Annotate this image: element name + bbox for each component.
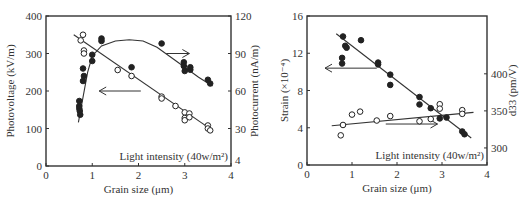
filled-marker — [437, 116, 443, 122]
x-tick-label: 0 — [43, 169, 49, 181]
filled-marker — [339, 61, 345, 67]
filled-marker — [159, 41, 165, 47]
filled-marker — [387, 72, 393, 78]
y-tick-label: 300 — [26, 48, 43, 60]
open-marker — [387, 113, 393, 119]
open-marker — [340, 122, 346, 128]
filled-marker — [207, 81, 213, 87]
open-marker — [129, 73, 135, 79]
open-marker — [80, 32, 86, 38]
open-marker — [207, 128, 213, 134]
filled-marker — [375, 62, 381, 68]
y-right-tick-label: 60 — [235, 85, 247, 97]
light-intensity-annotation: Light intensity (40w/m²) — [120, 150, 229, 163]
filled-marker — [99, 38, 105, 44]
open-marker — [417, 118, 423, 124]
y-right-tick-label: 120 — [235, 10, 252, 22]
y-tick-label: 0 — [37, 160, 43, 172]
y-axis-label: Strain (×10⁻⁴) — [278, 59, 291, 123]
filled-marker — [182, 68, 188, 74]
open-marker — [173, 103, 179, 109]
y-tick-label: 4 — [298, 122, 304, 134]
plot-frame — [307, 16, 487, 165]
open-marker — [428, 116, 434, 122]
y-tick-label: 400 — [26, 10, 43, 22]
x-tick-label: 3 — [182, 169, 188, 181]
x-tick-label: 4 — [228, 169, 234, 181]
open-marker — [437, 106, 443, 112]
filled-marker — [129, 64, 135, 70]
open-marker — [159, 96, 165, 102]
figure: 0123401002003004003060901204Grain size (… — [0, 0, 532, 202]
light-intensity-annotation: Light intensity (40w/m²) — [376, 149, 485, 162]
y-right-tick-label: 30 — [235, 123, 247, 135]
x-tick-label: 1 — [349, 168, 355, 180]
y-tick-label: 8 — [298, 85, 304, 97]
filled-marker — [340, 34, 346, 40]
filled-marker — [89, 52, 95, 58]
filled-marker — [89, 58, 95, 64]
chart-2: 012340481216300350400Grain size (μm)Stra… — [278, 10, 519, 195]
y-right-tick-label: 90 — [235, 48, 247, 60]
y-right-axis-label: Photocurrent (nA/m) — [248, 45, 261, 137]
x-axis-label: Grain size (μm) — [104, 183, 174, 196]
figure-canvas: 0123401002003004003060901204Grain size (… — [0, 0, 532, 202]
y-tick-label: 100 — [26, 123, 43, 135]
x-tick-label: 4 — [484, 168, 490, 180]
x-tick-label: 1 — [90, 169, 96, 181]
y-right-axis-label: d33 (pm/V) — [506, 64, 519, 116]
y-tick-label: 16 — [292, 10, 304, 22]
y-tick-label: 12 — [292, 47, 303, 59]
x-tick-label: 2 — [394, 168, 400, 180]
filled-marker — [417, 102, 423, 108]
y-right-corner-label: 4 — [235, 154, 241, 166]
filled-marker — [358, 37, 364, 43]
open-marker — [115, 67, 121, 73]
open-marker — [374, 118, 380, 124]
open-marker — [459, 111, 465, 117]
x-tick-label: 3 — [439, 168, 445, 180]
filled-marker — [462, 131, 468, 137]
filled-marker — [444, 115, 450, 121]
y-right-tick-label: 300 — [491, 142, 508, 154]
filled-marker — [80, 78, 86, 84]
open-marker — [338, 133, 344, 139]
x-tick-label: 2 — [136, 169, 142, 181]
filled-marker — [77, 112, 83, 118]
open-marker — [187, 114, 193, 120]
open-marker — [78, 38, 84, 44]
chart-1: 0123401002003004003060901204Grain size (… — [4, 10, 261, 196]
filled-marker — [387, 82, 393, 88]
open-marker — [81, 51, 87, 57]
open-marker — [349, 112, 355, 118]
y-axis-label: Photovoltage (kV/m) — [4, 44, 17, 138]
x-tick-label: 0 — [304, 168, 310, 180]
filled-marker — [80, 66, 86, 72]
filled-marker — [428, 105, 434, 111]
filled-marker — [417, 94, 423, 100]
filled-marker — [339, 55, 345, 61]
y-tick-label: 0 — [298, 159, 304, 171]
y-tick-label: 200 — [26, 85, 43, 97]
filled-marker — [344, 45, 350, 51]
open-marker — [357, 109, 363, 115]
x-axis-label: Grain size (μm) — [362, 182, 432, 195]
filled-marker — [188, 67, 194, 73]
fit-line-strain — [336, 34, 471, 138]
